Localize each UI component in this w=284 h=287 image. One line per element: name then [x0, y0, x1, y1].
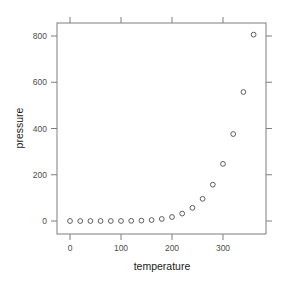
x-axis-label: temperature	[134, 260, 191, 272]
data-point	[149, 218, 154, 223]
y-tick-label: 800	[33, 31, 47, 41]
x-tick-label: 300	[216, 243, 230, 253]
y-tick-label: 0	[42, 216, 47, 226]
x-tick-label: 200	[165, 243, 179, 253]
data-point	[159, 217, 164, 222]
data-point	[88, 219, 93, 224]
data-point	[251, 32, 256, 37]
data-point	[78, 219, 83, 224]
data-point	[129, 218, 134, 223]
y-tick-label: 200	[33, 170, 47, 180]
frame-border	[57, 23, 266, 234]
plot-frame	[57, 23, 266, 234]
data-point	[200, 196, 205, 201]
y-axis-label: pressure	[13, 107, 25, 148]
y-axis: 0200400600800	[33, 31, 272, 226]
data-point	[231, 132, 236, 137]
data-point	[170, 215, 175, 220]
x-tick-label: 100	[114, 243, 128, 253]
x-tick-label: 0	[68, 243, 73, 253]
data-points	[68, 32, 256, 223]
data-point	[108, 219, 113, 224]
x-axis: 0100200300	[68, 17, 231, 253]
data-point	[98, 219, 103, 224]
data-point	[190, 205, 195, 210]
data-point	[68, 219, 73, 224]
data-point	[221, 161, 226, 166]
data-point	[210, 182, 215, 187]
y-tick-label: 600	[33, 77, 47, 87]
data-point	[139, 218, 144, 223]
data-point	[241, 90, 246, 95]
scatter-plot: 0100200300 0200400600800 temperature pre…	[0, 0, 284, 287]
data-point	[180, 211, 185, 216]
y-tick-label: 400	[33, 124, 47, 134]
data-point	[119, 219, 124, 224]
